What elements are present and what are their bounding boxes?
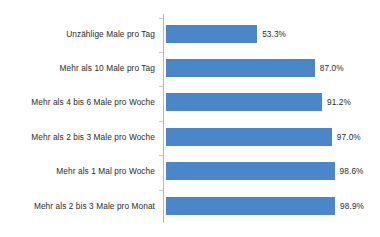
category-label: Mehr als 4 bis 6 Male pro Woche: [31, 98, 155, 106]
bar-value-label: 98.6%: [340, 167, 364, 175]
axis-tick: [159, 190, 163, 191]
bar-value-label: 91.2%: [327, 98, 351, 106]
bar: [166, 93, 322, 111]
bar: [166, 197, 335, 215]
bar: [166, 162, 335, 180]
bar-row: Mehr als 2 bis 3 Male pro Monat 98.9%: [0, 197, 380, 215]
bar-row: Mehr als 2 bis 3 Male pro Woche 97.0%: [0, 128, 380, 146]
axis-tick: [159, 18, 163, 19]
bar-row: Unzählige Male pro Tag 53.3%: [0, 25, 380, 43]
bar-value-label: 98.9%: [340, 202, 364, 210]
bar-row: Mehr als 4 bis 6 Male pro Woche 91.2%: [0, 93, 380, 111]
bar-chart: Unzählige Male pro Tag 53.3% Mehr als 10…: [0, 0, 380, 237]
bar: [166, 25, 257, 43]
axis-tick: [159, 86, 163, 87]
bar-value-label: 53.3%: [262, 30, 286, 38]
bar-row: Mehr als 1 Mal pro Woche 98.6%: [0, 162, 380, 180]
category-label: Mehr als 2 bis 3 Male pro Monat: [34, 202, 155, 210]
category-label: Unzählige Male pro Tag: [66, 30, 155, 38]
bar: [166, 128, 332, 146]
bar: [166, 59, 315, 77]
bar-value-label: 87.0%: [320, 64, 344, 72]
plot-area: Unzählige Male pro Tag 53.3% Mehr als 10…: [0, 0, 380, 237]
bar-row: Mehr als 10 Male pro Tag 87.0%: [0, 59, 380, 77]
category-axis-line: [163, 14, 164, 223]
axis-tick: [159, 155, 163, 156]
category-label: Mehr als 2 bis 3 Male pro Woche: [31, 133, 155, 141]
category-label: Mehr als 10 Male pro Tag: [60, 64, 155, 72]
axis-tick: [159, 121, 163, 122]
category-label: Mehr als 1 Mal pro Woche: [56, 167, 155, 175]
axis-tick: [159, 52, 163, 53]
bar-value-label: 97.0%: [337, 133, 361, 141]
